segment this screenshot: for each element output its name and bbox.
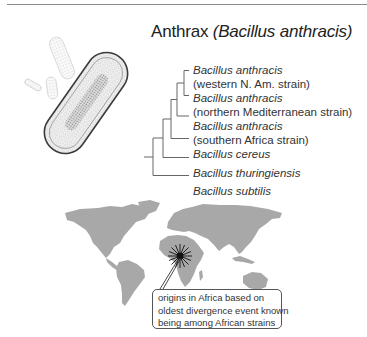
- bacterium-illustration: [24, 35, 136, 162]
- south-america: [116, 260, 145, 306]
- small-bacillus-1: [47, 35, 76, 81]
- australia: [243, 272, 268, 290]
- tree-leaf-4: Bacillus cereus: [193, 147, 270, 161]
- leaf-species: Bacillus anthracis: [193, 91, 352, 105]
- leaf-species: Bacillus anthracis: [193, 63, 310, 77]
- callout-line-3: being among African strains: [158, 317, 281, 330]
- title-scientific-name: (Bacillus anthracis): [213, 22, 353, 41]
- diagram-title: Anthrax (Bacillus anthracis): [151, 22, 352, 42]
- tree-leaf-1: Bacillus anthracis (western N. Am. strai…: [193, 63, 310, 91]
- leaf-strain: (northern Mediterranean strain): [193, 105, 352, 119]
- leaf-species: Bacillus anthracis: [193, 119, 309, 133]
- tree-leaf-2: Bacillus anthracis (northern Mediterrane…: [193, 91, 352, 119]
- tree-leaf-3: Bacillus anthracis (southern Africa stra…: [193, 119, 309, 147]
- madagascar: [199, 270, 203, 281]
- leaf-strain: (western N. Am. strain): [193, 77, 310, 91]
- small-bacillus-2: [46, 76, 59, 99]
- leaf-strain: (southern Africa strain): [193, 133, 309, 147]
- callout-line-2: oldest divergence event known: [158, 305, 281, 318]
- north-america: [65, 204, 150, 258]
- small-bacillus-3: [24, 78, 43, 92]
- origin-callout: origins in Africa based on oldest diverg…: [152, 289, 282, 329]
- phylogenetic-tree: [144, 71, 189, 176]
- diagram-graphics: [0, 0, 367, 337]
- callout-pointer: [160, 258, 181, 289]
- callout-line-1: origins in Africa based on: [158, 292, 281, 305]
- leaf-species: Bacillus thuringiensis: [193, 166, 300, 180]
- origin-starburst-icon: [168, 244, 192, 268]
- leaf-species: Bacillus subtilis: [193, 184, 271, 198]
- indonesia: [232, 256, 255, 264]
- main-bacillus: [36, 44, 136, 161]
- leaf-species: Bacillus cereus: [193, 147, 270, 161]
- tree-leaf-5: Bacillus thuringiensis: [193, 166, 300, 180]
- tree-leaf-6: Bacillus subtilis: [193, 184, 271, 198]
- title-common-name: Anthrax: [151, 22, 208, 41]
